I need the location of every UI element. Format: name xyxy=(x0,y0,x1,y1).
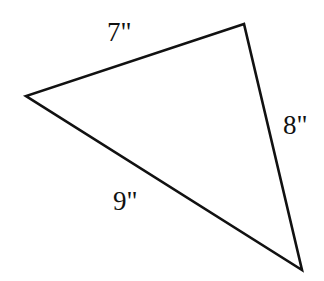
triangle-svg xyxy=(0,0,324,281)
side-length-label-top: 7" xyxy=(107,19,132,46)
triangle-figure: 7" 8" 9" xyxy=(0,0,324,281)
side-length-label-bottom: 9" xyxy=(113,188,138,215)
side-length-label-right: 8" xyxy=(283,112,308,139)
